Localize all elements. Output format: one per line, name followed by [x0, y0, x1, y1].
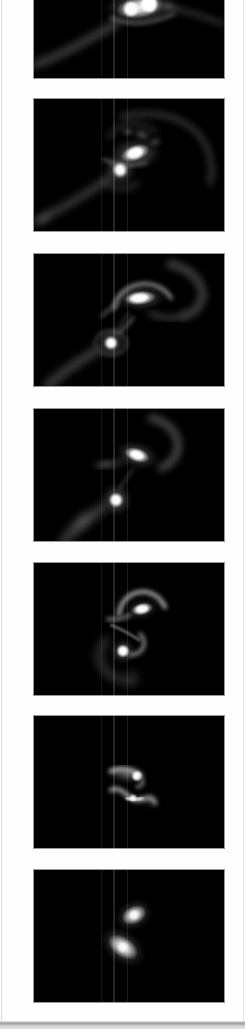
galaxy-render-1: [34, 0, 224, 78]
galaxy-render-6: [34, 716, 224, 848]
galaxy-render-3: [34, 254, 224, 386]
simulation-frame-3[interactable]: [33, 253, 225, 387]
galaxy-render-4: [34, 409, 224, 541]
galaxy-render-5: [34, 563, 224, 695]
galaxy-render-7: [34, 870, 224, 1002]
panel-left-border: [1, 0, 2, 1022]
simulation-frame-7[interactable]: [33, 869, 225, 1003]
simulation-frame-1[interactable]: [33, 0, 225, 79]
simulation-frame-5[interactable]: [33, 562, 225, 696]
simulation-frame-6[interactable]: [33, 715, 225, 849]
panel-right-border: [243, 0, 244, 1022]
galaxy-render-2: [34, 99, 224, 231]
simulation-frame-2[interactable]: [33, 98, 225, 232]
simulation-frame-4[interactable]: [33, 408, 225, 542]
panel-bottom-edge: [0, 1021, 245, 1029]
